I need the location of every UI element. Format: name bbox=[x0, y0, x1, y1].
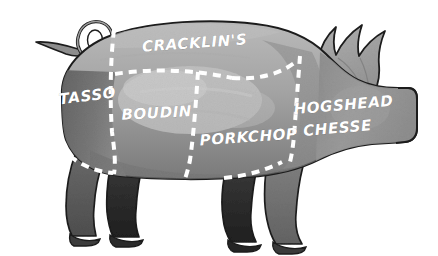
cut-label-boudin: BOUDIN bbox=[121, 102, 192, 124]
pig-illustration: TASSO CRACKLIN'S BOUDIN PORKCHOP HOGSHEA… bbox=[0, 0, 438, 256]
pig-butcher-diagram: TASSO CRACKLIN'S BOUDIN PORKCHOP HOGSHEA… bbox=[0, 0, 438, 256]
